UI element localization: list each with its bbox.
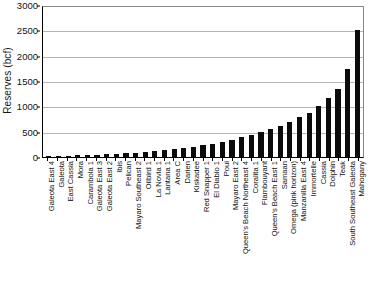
plot-area bbox=[42, 6, 364, 158]
bar-slot bbox=[218, 7, 228, 157]
bar bbox=[297, 117, 302, 157]
x-axis-label-slot: Darien bbox=[179, 161, 189, 279]
x-axis-label-slot: Coralita 1 bbox=[247, 161, 257, 279]
bar bbox=[229, 140, 234, 157]
bar-slot bbox=[237, 7, 247, 157]
bar-slot bbox=[179, 7, 189, 157]
bar-slot bbox=[266, 7, 276, 157]
bar-slot bbox=[333, 7, 343, 157]
bar bbox=[326, 98, 331, 157]
bar-slot bbox=[121, 7, 131, 157]
x-axis-label-slot: East Cassia bbox=[62, 161, 72, 279]
bar bbox=[85, 155, 90, 157]
bar bbox=[355, 30, 360, 157]
x-axis-label-slot: Oilbird 1 bbox=[140, 161, 150, 279]
bar bbox=[316, 106, 321, 157]
y-axis-tick-labels: 050010001500200025003000 bbox=[12, 0, 40, 165]
x-axis-label-slot: La Novia 1 bbox=[150, 161, 160, 279]
x-axis-tick-label: Mahogany bbox=[358, 161, 366, 196]
bar bbox=[258, 132, 263, 157]
x-axis-label-slot: South Southeast Galeota bbox=[344, 161, 354, 279]
y-axis-tick-mark bbox=[37, 6, 40, 7]
bar-slot bbox=[54, 7, 64, 157]
bar-slot bbox=[324, 7, 334, 157]
x-axis-label-slot: Carambola 1 bbox=[82, 161, 92, 279]
bar bbox=[56, 156, 61, 157]
bar-chart: Reserves (bcf) 050010001500200025003000 … bbox=[0, 0, 369, 281]
bar bbox=[278, 126, 283, 157]
x-axis-label-slot: Omega (pink horizon) bbox=[286, 161, 296, 279]
y-axis-tick-mark bbox=[37, 158, 40, 159]
bar bbox=[46, 156, 51, 157]
bar-slot bbox=[92, 7, 102, 157]
bar bbox=[210, 144, 215, 157]
x-axis-label-slot: Galeota East 3 bbox=[92, 161, 102, 279]
bar bbox=[181, 148, 186, 157]
y-axis-tick-mark bbox=[37, 31, 40, 32]
bar-slot bbox=[111, 7, 121, 157]
bar bbox=[133, 153, 138, 157]
bar-slot bbox=[275, 7, 285, 157]
bar-slot bbox=[208, 7, 218, 157]
bar bbox=[287, 122, 292, 157]
bar bbox=[335, 89, 340, 157]
bar-slot bbox=[131, 7, 141, 157]
bar bbox=[143, 152, 148, 157]
x-axis-label-slot: Galeota bbox=[53, 161, 63, 279]
x-axis-label-slot: Mayaro Southeast 2 bbox=[130, 161, 140, 279]
bar bbox=[220, 142, 225, 157]
bar bbox=[94, 155, 99, 157]
y-axis-tick-label: 2500 bbox=[17, 27, 38, 37]
x-axis-label-slot: Immortelle bbox=[305, 161, 315, 279]
x-axis-tick-labels: Galeota East 4GaleotaEast CassiaMoraCara… bbox=[42, 161, 364, 279]
bar-slot bbox=[140, 7, 150, 157]
y-axis-tick-label: 1000 bbox=[17, 103, 38, 113]
x-axis-label-slot: Lantana 1 bbox=[159, 161, 169, 279]
bar bbox=[66, 156, 71, 157]
y-axis-tick-mark bbox=[37, 82, 40, 83]
bar bbox=[200, 145, 205, 157]
bar-slot bbox=[314, 7, 324, 157]
x-axis-label-slot: El Diablo 1 bbox=[208, 161, 218, 279]
bar bbox=[239, 137, 244, 157]
bar bbox=[123, 153, 128, 157]
bar bbox=[345, 69, 350, 157]
y-axis-tick-label: 3000 bbox=[17, 1, 38, 11]
x-axis-label-slot: Galeota East 2 bbox=[101, 161, 111, 279]
x-axis-label-slot: Mayaro East 2 bbox=[227, 161, 237, 279]
bar-slot bbox=[150, 7, 160, 157]
bar-slot bbox=[44, 7, 54, 157]
x-axis-label-slot: Cassia bbox=[315, 161, 325, 279]
x-axis-label-slot: Mora bbox=[72, 161, 82, 279]
x-axis-label-slot: Teak bbox=[334, 161, 344, 279]
y-axis-tick-label: 2000 bbox=[17, 52, 38, 62]
x-axis-label-slot: Poui bbox=[218, 161, 228, 279]
x-axis-label-slot: Area C bbox=[169, 161, 179, 279]
bar bbox=[191, 147, 196, 157]
y-axis-tick-label: 500 bbox=[22, 128, 38, 138]
bar bbox=[249, 135, 254, 157]
bar bbox=[307, 113, 312, 157]
y-axis-tick-mark bbox=[37, 107, 40, 108]
bar-slot bbox=[246, 7, 256, 157]
x-axis-label-slot: Queen's Beach East 1 bbox=[266, 161, 276, 279]
bar-slot bbox=[73, 7, 83, 157]
bar-slot bbox=[227, 7, 237, 157]
bar-slot bbox=[295, 7, 305, 157]
bar-slot bbox=[285, 7, 295, 157]
bar bbox=[104, 154, 109, 157]
bars-layer bbox=[43, 7, 363, 157]
x-axis-label-slot: Flambouyant bbox=[256, 161, 266, 279]
bar bbox=[172, 149, 177, 157]
bar-slot bbox=[343, 7, 353, 157]
bar-slot bbox=[169, 7, 179, 157]
x-axis-label-slot: Dolphin bbox=[324, 161, 334, 279]
x-axis-label-slot: Queen's Beach Northeast 4 bbox=[237, 161, 247, 279]
x-axis-label-slot: Red Snapper 1 bbox=[198, 161, 208, 279]
bar-slot bbox=[353, 7, 363, 157]
bar bbox=[75, 155, 80, 157]
bar-slot bbox=[83, 7, 93, 157]
y-axis-tick-mark bbox=[37, 132, 40, 133]
bar-slot bbox=[102, 7, 112, 157]
bar-slot bbox=[198, 7, 208, 157]
